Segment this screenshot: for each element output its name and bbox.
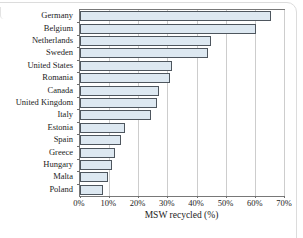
bar-chart-plot-area	[79, 9, 285, 197]
bar-row	[80, 134, 284, 146]
bar-germany	[80, 11, 271, 21]
bar-row	[80, 146, 284, 158]
x-tick-label: 40%	[188, 198, 204, 208]
bar-row	[80, 47, 284, 59]
x-tick-label: 10%	[100, 198, 116, 208]
x-axis-title: MSW recycled (%)	[79, 210, 284, 220]
gridline	[284, 10, 285, 196]
country-label: United Kingdom	[0, 96, 76, 108]
country-label: Greece	[0, 145, 76, 157]
bar-romania	[80, 73, 170, 83]
bar-row	[80, 10, 284, 22]
country-label: Hungary	[0, 158, 76, 170]
bar-united-states	[80, 61, 172, 71]
bar-row	[80, 109, 284, 121]
bar-row	[80, 171, 284, 183]
country-label: United States	[0, 59, 76, 71]
bar-malta	[80, 172, 108, 182]
bar-row	[80, 60, 284, 72]
bar-poland	[80, 185, 103, 195]
bar-row	[80, 122, 284, 134]
bar-greece	[80, 148, 115, 158]
bar-netherlands	[80, 36, 211, 46]
country-label: Romania	[0, 71, 76, 83]
country-label: Belgium	[0, 21, 76, 33]
bar-row	[80, 35, 284, 47]
bar-italy	[80, 110, 151, 120]
country-label: Germany	[0, 9, 76, 21]
figure-container: GermanyBelgiumNetherlandsSwedenUnited St…	[0, 0, 303, 238]
bar-row	[80, 72, 284, 84]
country-label: Italy	[0, 108, 76, 120]
bar-united-kingdom	[80, 98, 157, 108]
bar-spain	[80, 135, 121, 145]
bar-row	[80, 84, 284, 96]
bar-row	[80, 97, 284, 109]
bar-hungary	[80, 160, 112, 170]
bar-belgium	[80, 24, 256, 34]
x-tick-label: 20%	[130, 198, 146, 208]
x-tick-label: 50%	[218, 198, 234, 208]
country-label: Canada	[0, 83, 76, 95]
bar-row	[80, 184, 284, 196]
country-label: Malta	[0, 170, 76, 182]
x-tick-label: 0%	[73, 198, 84, 208]
x-tick-label: 30%	[159, 198, 175, 208]
bars-layer	[80, 10, 284, 196]
country-label: Estonia	[0, 121, 76, 133]
bar-row	[80, 22, 284, 34]
country-label: Sweden	[0, 46, 76, 58]
x-axis-tick-labels: 0%10%20%30%40%50%60%70%	[79, 198, 284, 208]
x-tick-label: 70%	[276, 198, 292, 208]
country-label: Netherlands	[0, 34, 76, 46]
y-axis-labels: GermanyBelgiumNetherlandsSwedenUnited St…	[0, 9, 76, 195]
bar-canada	[80, 86, 159, 96]
country-label: Spain	[0, 133, 76, 145]
bar-estonia	[80, 123, 125, 133]
bar-row	[80, 159, 284, 171]
country-label: Poland	[0, 183, 76, 195]
x-tick-label: 60%	[247, 198, 263, 208]
bar-sweden	[80, 48, 208, 58]
